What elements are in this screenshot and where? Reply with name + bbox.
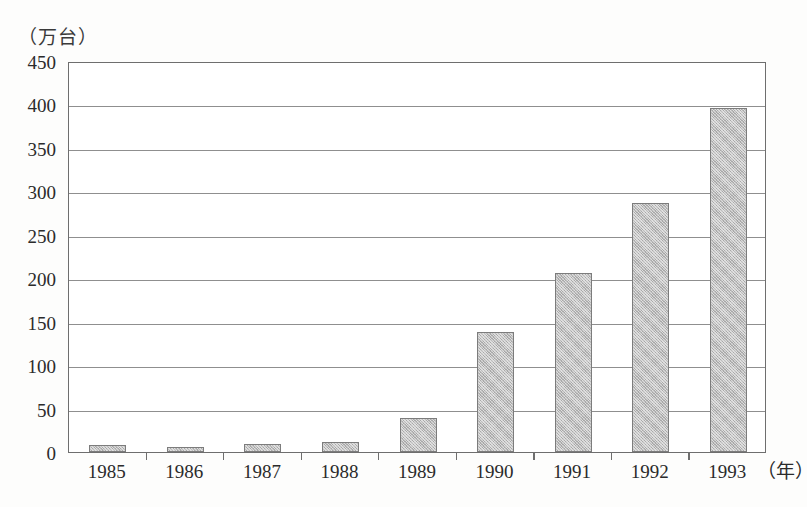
bar [710,108,747,452]
bar [167,447,204,452]
y-axis-tick-label: 350 [28,139,57,158]
y-axis-tick-label: 100 [28,357,57,376]
x-axis-tick [611,453,612,460]
x-axis-tick [301,453,302,460]
x-axis-tick-label: 1985 [88,461,126,483]
bar-chart: （万台） 450400350300250200150100500 1985198… [0,0,807,507]
bar-series [69,63,765,452]
x-axis-tick [456,453,457,460]
x-axis-tick-label: 1986 [165,461,203,483]
y-axis-tick-labels: 450400350300250200150100500 [0,0,68,507]
x-axis-tick-label: 1990 [476,461,514,483]
x-axis-tick-label: 1992 [631,461,669,483]
x-axis-ticks [68,453,766,461]
x-axis-tick-label: 1989 [398,461,436,483]
y-axis-tick-label: 50 [37,400,56,419]
x-axis-tick-label: 1988 [320,461,358,483]
y-axis-tick-label: 450 [28,53,57,72]
x-axis-tick [146,453,147,460]
x-axis-tick-labels: 198519861987198819891990199119921993 [68,461,766,491]
y-axis-tick-label: 150 [28,313,57,332]
x-axis-tick [223,453,224,460]
y-axis-tick-label: 200 [28,270,57,289]
y-axis-tick-label: 300 [28,183,57,202]
y-axis-tick-label: 0 [47,444,57,463]
bar [632,203,669,452]
bar [89,445,126,452]
bar [244,444,281,452]
x-axis-tick [688,453,689,460]
bar [400,418,437,452]
x-axis-unit-label: （年） [757,461,807,483]
bar [477,332,514,452]
y-axis-tick-label: 250 [28,226,57,245]
x-axis-tick-label: 1987 [243,461,281,483]
plot-area [68,62,766,453]
x-axis-tick-label: 1991 [553,461,591,483]
x-axis-tick [533,453,534,460]
x-axis-tick-label: 1993 [708,461,746,483]
y-axis-tick-label: 400 [28,96,57,115]
bar [555,273,592,452]
x-axis-tick [378,453,379,460]
bar [322,442,359,452]
